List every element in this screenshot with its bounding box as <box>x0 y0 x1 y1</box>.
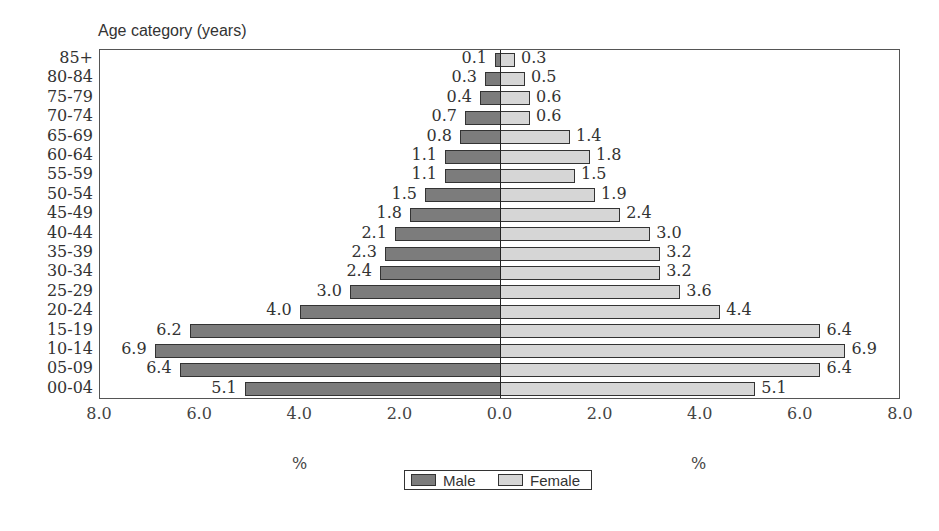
value-label-male: 2.3 <box>351 242 376 262</box>
bar-male <box>480 91 501 105</box>
x-axis-tick-label: 4.0 <box>687 404 712 423</box>
value-label-female: 0.3 <box>521 48 546 68</box>
bar-female <box>500 169 575 183</box>
value-label-female: 6.4 <box>826 358 851 378</box>
bar-female <box>500 150 590 164</box>
bar-male <box>350 285 501 299</box>
x-axis-label-female: % <box>691 454 706 473</box>
bar-male <box>385 247 501 261</box>
value-label-female: 1.9 <box>601 184 626 204</box>
value-label-female: 1.8 <box>596 145 621 165</box>
value-label-female: 1.4 <box>576 126 601 146</box>
bar-female <box>500 72 525 86</box>
zero-axis-line <box>500 50 501 398</box>
bar-male <box>425 188 501 202</box>
bar-female <box>500 247 660 261</box>
bar-male <box>410 208 501 222</box>
y-axis-category-label: 85+ <box>33 48 93 68</box>
y-axis-category-label: 60-64 <box>33 145 93 165</box>
value-label-male: 4.0 <box>266 300 291 320</box>
value-label-male: 0.3 <box>452 67 477 87</box>
bar-male <box>380 266 501 280</box>
bar-male <box>155 344 501 358</box>
value-label-male: 1.1 <box>411 164 436 184</box>
cropped-figure-title <box>95 0 875 4</box>
bar-female <box>500 285 680 299</box>
value-label-male: 0.1 <box>462 48 487 68</box>
x-axis-tick-label: 6.0 <box>787 404 812 423</box>
bar-female <box>500 382 755 396</box>
y-axis-category-label: 55-59 <box>33 164 93 184</box>
y-axis-title: Age category (years) <box>98 22 247 40</box>
bar-male <box>300 305 501 319</box>
x-axis-tick-label: 6.0 <box>186 404 211 423</box>
y-axis-category-label: 00-04 <box>33 378 93 398</box>
bar-female <box>500 266 660 280</box>
value-label-female: 0.6 <box>536 106 561 126</box>
y-axis-category-label: 35-39 <box>33 242 93 262</box>
value-label-female: 0.5 <box>531 67 556 87</box>
value-label-male: 0.8 <box>427 126 452 146</box>
y-axis-category-label: 05-09 <box>33 358 93 378</box>
y-axis-category-label: 50-54 <box>33 184 93 204</box>
value-label-female: 3.6 <box>686 281 711 301</box>
bar-female <box>500 53 515 67</box>
bar-male <box>395 227 501 241</box>
y-axis-category-label: 70-74 <box>33 106 93 126</box>
value-label-male: 5.1 <box>211 378 236 398</box>
legend-swatch-male <box>411 474 436 486</box>
value-label-male: 1.5 <box>391 184 416 204</box>
value-label-male: 2.1 <box>361 223 386 243</box>
bar-female <box>500 91 530 105</box>
bar-male <box>180 363 501 377</box>
value-label-female: 0.6 <box>536 87 561 107</box>
y-axis-category-label: 45-49 <box>33 203 93 223</box>
bar-male <box>460 130 501 144</box>
plot-area: 0.10.30.30.50.40.60.70.60.81.41.11.81.11… <box>99 49 900 399</box>
bar-male <box>465 111 501 125</box>
bar-male <box>190 324 501 338</box>
bar-female <box>500 208 620 222</box>
bar-female <box>500 363 820 377</box>
value-label-female: 6.9 <box>851 339 876 359</box>
bar-male <box>445 150 501 164</box>
x-axis-tick-label: 8.0 <box>86 404 111 423</box>
value-label-female: 4.4 <box>726 300 751 320</box>
legend-swatch-female <box>498 474 523 486</box>
value-label-male: 6.2 <box>156 320 181 340</box>
value-label-male: 6.9 <box>121 339 146 359</box>
value-label-female: 1.5 <box>581 164 606 184</box>
value-label-female: 5.1 <box>761 378 786 398</box>
x-axis-tick-label: 2.0 <box>587 404 612 423</box>
x-axis-tick-label: 8.0 <box>887 404 912 423</box>
bar-female <box>500 188 595 202</box>
y-axis-category-label: 25-29 <box>33 281 93 301</box>
y-axis-category-label: 65-69 <box>33 126 93 146</box>
legend-label-female: Female <box>530 471 580 490</box>
y-axis-category-label: 10-14 <box>33 339 93 359</box>
bar-male <box>485 72 501 86</box>
y-axis-category-label: 15-19 <box>33 320 93 340</box>
value-label-female: 3.0 <box>656 223 681 243</box>
x-axis-tick-label: 0.0 <box>487 404 512 423</box>
value-label-female: 6.4 <box>826 320 851 340</box>
y-axis-category-label: 80-84 <box>33 67 93 87</box>
value-label-male: 0.4 <box>447 87 472 107</box>
bar-female <box>500 344 845 358</box>
y-axis-category-label: 40-44 <box>33 223 93 243</box>
x-axis-tick-label: 2.0 <box>387 404 412 423</box>
bar-female <box>500 227 650 241</box>
y-axis-category-label: 30-34 <box>33 261 93 281</box>
value-label-female: 3.2 <box>666 242 691 262</box>
bar-male <box>445 169 501 183</box>
legend-label-male: Male <box>443 471 476 490</box>
value-label-male: 2.4 <box>346 261 371 281</box>
value-label-female: 2.4 <box>626 203 651 223</box>
bar-female <box>500 130 570 144</box>
y-axis-category-label: 75-79 <box>33 87 93 107</box>
value-label-male: 1.1 <box>411 145 436 165</box>
bar-female <box>500 324 820 338</box>
x-axis-label-male: % <box>292 454 307 473</box>
value-label-male: 3.0 <box>316 281 341 301</box>
bar-female <box>500 111 530 125</box>
